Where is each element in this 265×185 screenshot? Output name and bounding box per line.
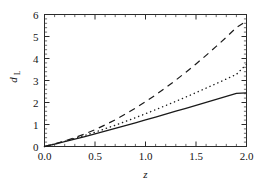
y-tick-label: 5 [33,31,39,43]
x-axis-title: z [142,168,148,180]
curve-dashed [45,21,247,146]
figure-container: 0.00.51.01.52.0 0123456 z d L [0,0,265,185]
x-axis-tick-labels: 0.00.51.01.52.0 [38,150,254,162]
curve-solid [45,93,247,147]
y-tick-label: 6 [33,9,39,21]
y-tick-label: 0 [33,141,39,153]
x-tick-label: 1.5 [189,150,203,162]
y-axis-title-subscript: L [13,70,22,75]
x-axis-ticks [45,15,247,147]
y-tick-label: 3 [33,75,39,87]
curve-dotted [45,64,247,146]
x-tick-label: 2.0 [240,150,254,162]
y-tick-label: 2 [33,97,39,109]
x-tick-label: 0.0 [38,150,52,162]
luminosity-distance-plot: 0.00.51.01.52.0 0123456 z d L [0,0,265,185]
y-axis-ticks [45,15,247,147]
y-tick-label: 1 [33,119,39,131]
x-tick-label: 1.0 [139,150,153,162]
y-axis-title: d L [7,70,22,83]
y-axis-title-main: d [7,77,19,83]
y-axis-tick-labels: 0123456 [33,9,39,153]
y-tick-label: 4 [33,53,39,65]
x-tick-label: 0.5 [88,150,102,162]
plot-frame [45,15,247,147]
data-series-group [45,21,247,146]
